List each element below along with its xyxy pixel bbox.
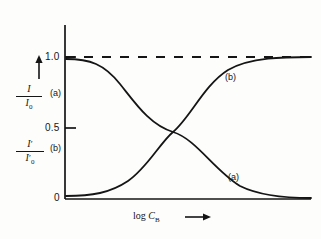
chart-svg bbox=[0, 0, 321, 239]
fraction-a-bar bbox=[16, 96, 42, 97]
y-direction-up-arrow-icon bbox=[35, 55, 42, 79]
x-axis-label-text: log bbox=[133, 210, 148, 221]
y-axis-tag-b: (b) bbox=[50, 144, 61, 153]
x-axis-label: log CB bbox=[133, 211, 160, 224]
y-tick-label-0.5: 0.5 bbox=[45, 123, 60, 133]
y-tick-label-0: 0 bbox=[54, 193, 60, 203]
y-axis-label-fraction-b: I′ I′0 bbox=[16, 139, 44, 166]
figure-panel: 1.0 0.5 0 I I0 (a) I′ I′0 (b) (b) (a) lo… bbox=[0, 0, 321, 239]
y-axis-tag-a: (a) bbox=[50, 89, 61, 98]
y-axis-label-fraction-a: I I0 bbox=[16, 84, 42, 111]
x-axis-label-symbol: C bbox=[148, 210, 155, 221]
curve-label-a: (a) bbox=[228, 173, 239, 182]
fraction-b-numerator: I′ bbox=[16, 139, 44, 150]
fraction-b-denominator-subscript: 0 bbox=[31, 158, 35, 166]
fraction-b-bar bbox=[16, 151, 44, 152]
x-axis-label-subscript: B bbox=[155, 216, 160, 224]
y-tick-label-1.0: 1.0 bbox=[45, 52, 60, 62]
curve-b-ascending bbox=[66, 57, 311, 196]
curve-a-descending bbox=[66, 59, 311, 198]
fraction-a-numerator: I bbox=[16, 84, 42, 95]
fraction-a-denominator-subscript: 0 bbox=[29, 103, 33, 111]
fraction-b-numerator-prime: ′ bbox=[31, 139, 33, 149]
curve-label-b: (b) bbox=[225, 73, 236, 82]
fraction-a-denominator: I0 bbox=[16, 98, 42, 111]
x-direction-right-arrow-icon bbox=[185, 213, 211, 220]
fraction-b-denominator: I′0 bbox=[16, 153, 44, 166]
